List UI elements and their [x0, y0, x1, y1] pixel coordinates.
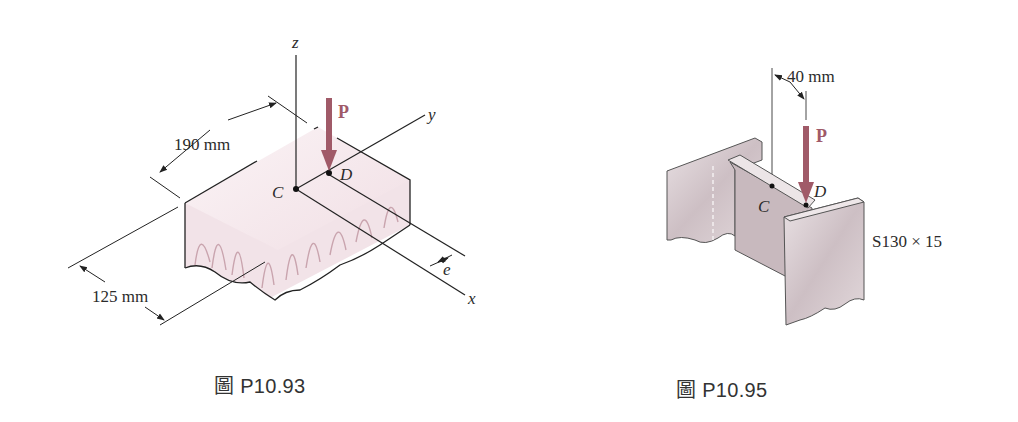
point-d-dot: [804, 203, 809, 208]
y-axis-label: y: [426, 105, 436, 124]
load-label-p: P: [816, 126, 827, 146]
eccentricity-label: e: [443, 260, 451, 279]
figures-canvas: z y x P C D e 190 mm 125 mm: [0, 0, 1018, 422]
section-designation-label: S130 × 15: [872, 232, 942, 251]
width-dimension-label: 190 mm: [174, 135, 230, 154]
depth-dimension-label: 125 mm: [92, 287, 148, 306]
point-d-label: D: [339, 165, 353, 184]
figure-p10-95: 40 mm P C D S130 × 15: [667, 67, 942, 325]
point-c-dot: [770, 184, 775, 189]
figure-caption-p10-93: 圖 P10.93: [214, 370, 305, 399]
point-c-label: C: [758, 197, 770, 216]
load-label-p: P: [338, 102, 349, 122]
x-axis-label: x: [467, 289, 476, 308]
z-axis-label: z: [291, 33, 299, 52]
point-c-dot: [293, 186, 299, 192]
offset-dimension-label: 40 mm: [787, 67, 835, 86]
point-d-label: D: [813, 182, 827, 201]
point-c-label: C: [272, 183, 284, 202]
figure-caption-p10-95: 圖 P10.95: [676, 374, 767, 403]
figure-p10-93: z y x P C D e 190 mm 125 mm: [68, 33, 476, 325]
